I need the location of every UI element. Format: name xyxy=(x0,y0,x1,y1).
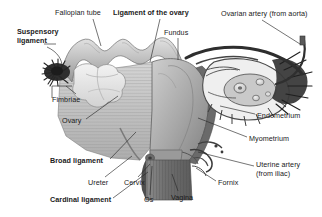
label-ureter: Ureter xyxy=(88,179,108,188)
label-fimbriae: Fimbriae xyxy=(52,96,80,105)
label-cardinal-ligament: Cardinal ligament xyxy=(50,196,111,205)
label-vagina: Vagina xyxy=(171,194,193,203)
label-endometrium: Endometrium xyxy=(257,112,300,121)
label-ovarian-artery: Ovarian artery (from aorta) xyxy=(221,10,307,19)
label-ligament-of-the-ovary: Ligament of the ovary xyxy=(113,9,189,18)
label-ovary: Ovary xyxy=(62,117,81,126)
anatomy-figure: Fallopian tube Ligament of the ovary Ova… xyxy=(0,0,322,217)
label-fornix: Fornix xyxy=(218,179,238,188)
label-fallopian-tube: Fallopian tube xyxy=(55,9,101,18)
label-suspensory-ligament: Suspensory ligament xyxy=(17,28,59,45)
label-broad-ligament: Broad ligament xyxy=(50,157,103,166)
label-os: Os xyxy=(144,196,153,205)
label-myometrium: Myometrium xyxy=(249,135,289,144)
label-uterine-artery: Uterine artery (from iliac) xyxy=(256,161,300,178)
label-fundus: Fundus xyxy=(164,29,188,38)
label-cervix: Cervix xyxy=(124,179,145,188)
